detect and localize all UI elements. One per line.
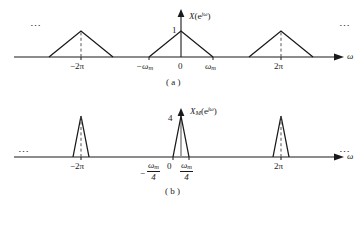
panel-a-ellipsis-right: ⋯	[339, 21, 351, 32]
panel-a-x-axis-arrow	[334, 53, 344, 60]
panel-b-neg-frac-denominator: 4	[147, 173, 160, 182]
panel-b-peak-value: 4	[168, 114, 173, 123]
panel-b-signal-label-paren-close: )	[214, 106, 217, 116]
panel-a-ticklabel-neg-wm-text: −ω	[136, 61, 148, 71]
panel-a-ellipsis-left: ⋯	[30, 21, 42, 32]
panel-a-ticklabel-pos-2pi: 2π	[274, 62, 283, 71]
panel-b-ticklabel-pos-2pi: 2π	[274, 162, 283, 171]
panel-b-ellipsis-left: ⋯	[18, 147, 30, 158]
panel-a-y-axis-arrow	[178, 9, 185, 17]
panel-a-ticklabel-neg-2pi: −2π	[70, 62, 84, 71]
panel-b: XM(ejω) 4 −2π − ωm 4 0 ωm 4 2π ω ⋯ ⋯ ( b…	[0, 100, 362, 230]
panel-a-ticklabel-neg-wm-sub: m	[148, 64, 153, 71]
panel-b-ticklabel-zero: 0	[167, 162, 172, 171]
panel-b-ticklabel-neg-frac-sign: −	[140, 168, 145, 178]
panel-b-caption: ( b )	[165, 186, 180, 196]
panel-b-neg-frac-numerator: ωm	[147, 161, 160, 171]
panel-b-signal-label: XM(ejω)	[190, 106, 217, 116]
panel-a-signal-label-paren-open: (e	[195, 11, 202, 21]
panel-a-omega-axis-label: ω	[347, 52, 353, 61]
panel-a-peak-value: 1	[172, 26, 177, 35]
panel-a-signal-label: X(ejω)	[189, 11, 210, 21]
panel-b-ticklabel-pos-wm-over-4: ωm 4	[180, 161, 193, 182]
panel-b-y-axis-arrow	[178, 108, 185, 116]
panel-a-caption: ( a )	[166, 77, 181, 87]
panel-a-plot	[0, 0, 362, 100]
panel-b-pos-frac-numerator: ωm	[180, 161, 193, 171]
panel-b-signal-label-paren-open: (e	[201, 106, 208, 116]
panel-a-ticklabel-zero: 0	[178, 62, 183, 71]
panel-b-ticklabel-neg-wm-over-4: ωm 4	[147, 161, 160, 182]
panel-a-signal-label-paren-close: )	[207, 11, 210, 21]
panel-a-ticklabel-pos-wm-sub: m	[211, 64, 216, 71]
panel-a-ticklabel-pos-wm: ωm	[205, 62, 216, 72]
panel-b-ticklabel-neg-2pi: −2π	[70, 162, 84, 171]
panel-b-ellipsis-right: ⋯	[339, 147, 351, 158]
panel-a: X(ejω) 1 −2π −ωm 0 ωm 2π ω ⋯ ⋯ ( a )	[0, 0, 362, 100]
panel-a-ticklabel-neg-wm: −ωm	[136, 62, 153, 72]
panel-b-pos-frac-denominator: 4	[180, 173, 193, 182]
figure-container: X(ejω) 1 −2π −ωm 0 ωm 2π ω ⋯ ⋯ ( a )	[0, 0, 362, 230]
